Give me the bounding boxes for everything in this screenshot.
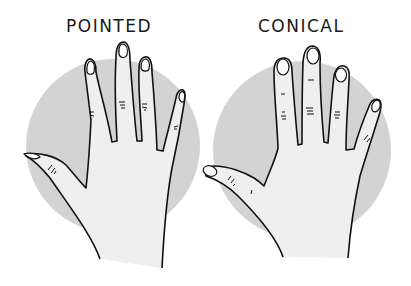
conical-nail bbox=[277, 59, 289, 75]
hands-illustration bbox=[0, 0, 411, 286]
conical-nail bbox=[336, 68, 347, 82]
conical-hand-panel bbox=[202, 46, 391, 258]
pointed-nail bbox=[179, 92, 185, 102]
pointed-nail bbox=[141, 59, 149, 71]
pointed-nail bbox=[119, 44, 128, 58]
pointed-hand-panel bbox=[24, 42, 200, 268]
pointed-nail bbox=[87, 61, 95, 74]
conical-nail bbox=[307, 48, 319, 64]
